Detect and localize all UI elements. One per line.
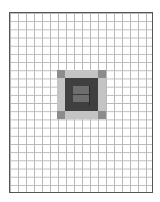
pattern-corner-bl: [57, 111, 65, 119]
grid-paper: [9, 12, 153, 193]
pattern-corner-tr: [98, 70, 106, 78]
pattern-core-line: [73, 94, 89, 95]
pattern-corner-tl: [57, 70, 65, 78]
pattern-inner-line-right: [89, 86, 90, 106]
pattern-corner-br: [98, 111, 106, 119]
